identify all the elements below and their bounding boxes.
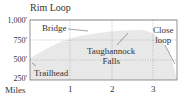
annotation-taughannock-falls: Taughannock Falls	[87, 46, 135, 66]
close-line-2: loop	[153, 35, 174, 45]
annotation-bridge: Bridge	[42, 23, 67, 33]
close-line-1: Close	[153, 25, 174, 35]
x-axis-label: Miles	[5, 85, 26, 95]
x-tick-2: 2	[110, 84, 115, 94]
bridge-leader	[68, 29, 88, 31]
annotation-close-loop: Close loop	[153, 25, 174, 45]
falls-line-2: Falls	[87, 56, 135, 66]
falls-line-1: Taughannock	[87, 46, 135, 56]
x-tick-3: 3	[151, 84, 156, 94]
annotation-trailhead: Trailhead	[34, 68, 68, 78]
x-tick-1: 1	[68, 84, 73, 94]
